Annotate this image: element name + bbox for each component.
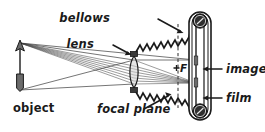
film-spool-bottom-icon — [193, 104, 207, 118]
lens-label: lens — [66, 37, 94, 51]
image-label: image — [226, 62, 265, 76]
lens-leader-line — [113, 45, 132, 55]
object-label: object — [13, 101, 55, 115]
focal-plane-label: focal plane — [97, 102, 171, 116]
object-arrow-icon — [16, 40, 25, 92]
bellows-upper — [136, 33, 190, 52]
diagram-canvas: F — [0, 0, 265, 132]
ray-bundle-lower — [20, 43, 196, 90]
camera-optics-diagram: F — [0, 0, 265, 132]
bellows-leader-line — [158, 19, 184, 33]
cross-marker-icon — [174, 65, 180, 71]
film-label: film — [226, 91, 252, 105]
biconvex-lens-icon — [130, 52, 138, 93]
bellows-label: bellows — [59, 11, 110, 25]
film-spool-top-icon — [193, 14, 207, 28]
focal-point-label: F — [180, 62, 188, 74]
